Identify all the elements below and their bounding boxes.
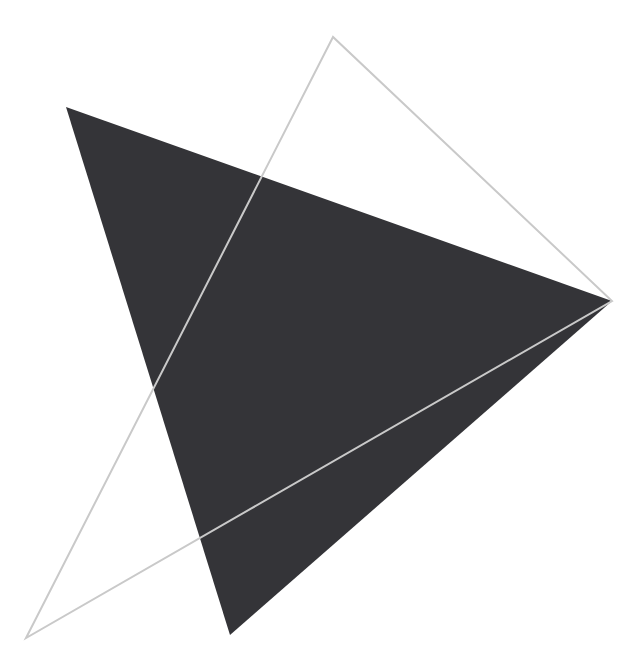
geometric-figure-svg bbox=[0, 0, 643, 669]
figure-canvas bbox=[0, 0, 643, 669]
